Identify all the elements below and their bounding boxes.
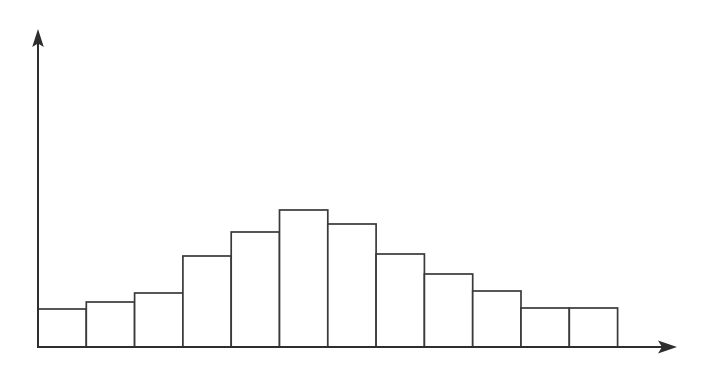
histogram-bar (135, 293, 183, 347)
histogram-bar (280, 210, 328, 347)
histogram-bar (424, 274, 472, 347)
histogram-bar (38, 309, 86, 347)
histogram-bar (231, 232, 279, 347)
histogram-bar (521, 308, 569, 347)
histogram-chart (0, 0, 712, 372)
histogram-bar (473, 291, 521, 347)
histogram-bar (328, 224, 376, 347)
histogram-bar (569, 308, 617, 347)
histogram-bar (376, 254, 424, 347)
vertical-axis (32, 29, 44, 347)
histogram-bar (86, 302, 134, 347)
bars-group (38, 210, 618, 347)
histogram-figure (0, 0, 712, 372)
histogram-bar (183, 256, 231, 347)
